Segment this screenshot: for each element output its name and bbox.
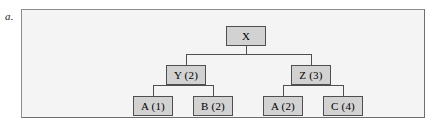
tree-node-label: A (2) [271,101,295,112]
figure-root: a. XY (2)Z (3)A (1)B (2)A (2)C (4) [0,0,438,125]
tree-node-c4: C (4) [323,96,363,116]
tree-node-label: B (2) [201,101,225,112]
tree-node-label: X [242,31,250,42]
tree-node-b2: B (2) [193,96,233,116]
tree-node-a1: A (1) [133,96,173,116]
tree-node-a2: A (2) [263,96,303,116]
tree-node-y: Y (2) [166,65,206,85]
tree-node-label: C (4) [331,101,355,112]
tree-node-label: Y (2) [174,70,198,81]
tree-node-label: Z (3) [299,70,322,81]
tree-node-z: Z (3) [291,65,331,85]
tree-node-x: X [226,26,266,46]
figure-panel: XY (2)Z (3)A (1)B (2)A (2)C (4) [21,9,425,118]
figure-label: a. [5,10,14,22]
tree-node-label: A (1) [141,101,165,112]
